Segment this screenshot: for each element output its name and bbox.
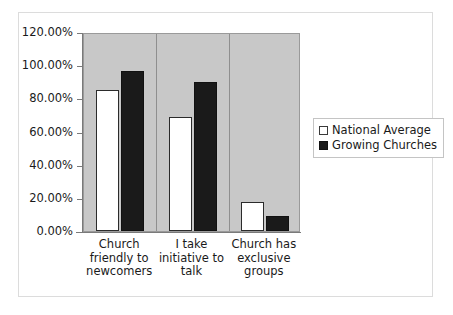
y-axis-tick-label-text: 0.00% (0, 226, 73, 238)
bar-growing-churches (194, 82, 217, 231)
legend-item-label: National Average (332, 125, 431, 137)
legend-item-label: Growing Churches (332, 140, 437, 152)
category-label-line: Church has (222, 238, 306, 252)
bar-growing-churches (121, 71, 144, 231)
y-axis-tick-label: 100.00% (0, 60, 73, 72)
legend-item[interactable]: Growing Churches (319, 138, 437, 153)
y-axis-tick-label-text: 100.00% (0, 60, 73, 72)
y-axis-tick-label-text: 60.00% (0, 127, 73, 139)
legend-item[interactable]: National Average (319, 123, 437, 138)
legend-swatch-growing (319, 141, 328, 150)
bar-national-average (169, 117, 192, 231)
y-axis-tick-label: 40.00% (0, 160, 73, 172)
y-axis-tick-label: 120.00% (0, 27, 73, 39)
y-axis-tick-label: 60.00% (0, 127, 73, 139)
x-axis-category-label: Church hasexclusivegroups (222, 238, 306, 279)
category-label-line: groups (222, 265, 306, 279)
bar-national-average (96, 90, 119, 231)
plot-area (83, 33, 300, 232)
y-axis-tick-label: 0.00% (0, 226, 73, 238)
y-axis-tick-label: 80.00% (0, 93, 73, 105)
y-axis-tick-label-text: 20.00% (0, 193, 73, 205)
y-axis-tick-label-text: 80.00% (0, 93, 73, 105)
legend-swatch-national (319, 126, 328, 135)
bar-growing-churches (266, 216, 289, 231)
y-axis-tick-label-text: 40.00% (0, 160, 73, 172)
bar-national-average (241, 202, 264, 231)
y-axis-tick-label-text: 120.00% (0, 27, 73, 39)
category-label-line: exclusive (222, 252, 306, 266)
y-axis-tick-label: 20.00% (0, 193, 73, 205)
category-divider (229, 34, 230, 231)
x-axis-line (76, 232, 301, 233)
chart-legend: National AverageGrowing Churches (313, 118, 444, 158)
bar-chart-figure: 120.00%100.00%80.00%60.00%40.00%20.00%0.… (0, 0, 453, 315)
category-divider (156, 34, 157, 231)
